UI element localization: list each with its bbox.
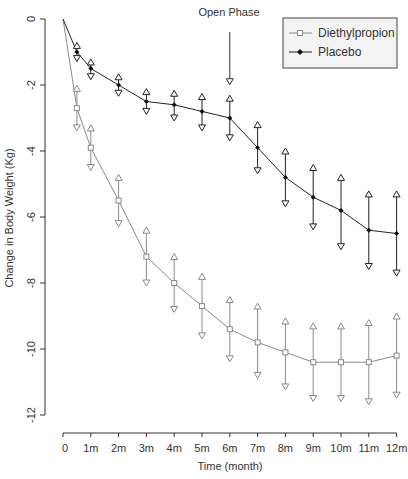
legend: Diethylpropion Placebo: [283, 18, 397, 68]
error-cap-up-icon: [115, 74, 122, 80]
error-cap-down-icon: [365, 399, 372, 405]
square-marker-icon: [311, 360, 316, 365]
error-cap-up-icon: [171, 254, 178, 260]
error-cap-up-icon: [310, 323, 317, 329]
error-cap-up-icon: [226, 297, 233, 303]
error-cap-down-icon: [338, 244, 345, 250]
y-tick-label: -10: [25, 341, 37, 357]
diamond-marker-icon: [394, 231, 399, 236]
error-cap-down-icon: [226, 356, 233, 362]
x-tick-label: 5m: [194, 442, 209, 454]
error-cap-down-icon: [115, 90, 122, 96]
error-cap-down-icon: [73, 56, 80, 62]
error-cap-up-icon: [254, 122, 261, 128]
error-cap-down-icon: [254, 372, 261, 378]
error-cap-up-icon: [338, 174, 345, 180]
y-tick-label: -2: [25, 80, 37, 90]
square-marker-icon: [255, 340, 260, 345]
x-tick-label: 12m: [386, 442, 407, 454]
square-marker-icon: [88, 145, 93, 150]
arrow-down-icon: [226, 79, 233, 85]
x-tick-label: 0: [62, 442, 68, 454]
weight-change-chart: 0-2-4-6-8-10-12 01m2m3m4m5m6m7m8m9m10m11…: [0, 0, 408, 479]
error-cap-up-icon: [393, 191, 400, 197]
x-tick-label: 7m: [250, 442, 265, 454]
square-marker-icon: [200, 304, 205, 309]
square-marker-icon: [144, 254, 149, 259]
x-tick-label: 3m: [139, 442, 154, 454]
error-cap-down-icon: [310, 396, 317, 402]
error-cap-up-icon: [171, 90, 178, 96]
square-marker-icon: [283, 350, 288, 355]
error-cap-down-icon: [282, 384, 289, 390]
diamond-marker-icon: [200, 109, 205, 114]
error-cap-up-icon: [310, 165, 317, 171]
y-tick-label: -8: [25, 278, 37, 288]
square-marker-icon: [366, 360, 371, 365]
open-phase-annotation: Open Phase: [198, 6, 259, 85]
error-cap-down-icon: [171, 306, 178, 312]
x-tick-label: 11m: [359, 442, 380, 454]
x-axis-title: Time (month): [198, 460, 263, 472]
error-cap-up-icon: [393, 313, 400, 319]
error-cap-down-icon: [393, 392, 400, 398]
error-cap-down-icon: [171, 115, 178, 121]
diamond-marker-icon: [144, 99, 149, 104]
error-cap-up-icon: [73, 85, 80, 91]
error-cap-down-icon: [87, 165, 94, 171]
legend-label-diethylpropion: Diethylpropion: [318, 26, 395, 40]
square-marker-icon: [394, 353, 399, 358]
square-marker-icon: [298, 31, 303, 36]
square-marker-icon: [339, 360, 344, 365]
diamond-marker-icon: [116, 83, 121, 88]
legend-label-placebo: Placebo: [318, 45, 362, 59]
error-cap-up-icon: [199, 273, 206, 279]
error-cap-down-icon: [143, 280, 150, 286]
error-cap-up-icon: [365, 320, 372, 326]
error-cap-up-icon: [87, 125, 94, 131]
error-cap-up-icon: [226, 95, 233, 101]
error-cap-up-icon: [199, 94, 206, 100]
error-cap-down-icon: [226, 135, 233, 141]
y-tick-label: 0: [25, 16, 37, 22]
error-cap-up-icon: [282, 318, 289, 324]
square-marker-icon: [116, 198, 121, 203]
diamond-marker-icon: [172, 102, 177, 107]
error-cap-up-icon: [143, 227, 150, 233]
error-cap-down-icon: [310, 224, 317, 230]
error-cap-down-icon: [393, 270, 400, 276]
square-marker-icon: [172, 281, 177, 286]
error-cap-down-icon: [143, 108, 150, 114]
x-tick-label: 2m: [111, 442, 126, 454]
error-cap-down-icon: [282, 201, 289, 207]
series-diethylpropion: [63, 19, 400, 405]
square-marker-icon: [227, 327, 232, 332]
error-cap-up-icon: [254, 303, 261, 309]
error-cap-up-icon: [143, 89, 150, 95]
error-cap-down-icon: [199, 333, 206, 339]
x-tick-label: 1m: [83, 442, 98, 454]
y-tick-label: -6: [25, 212, 37, 222]
y-axis: 0-2-4-6-8-10-12: [25, 16, 45, 423]
error-cap-down-icon: [87, 74, 94, 80]
plot-series: [63, 19, 400, 405]
error-cap-down-icon: [73, 125, 80, 131]
error-cap-down-icon: [199, 125, 206, 131]
x-tick-label: 10m: [330, 442, 351, 454]
error-cap-down-icon: [254, 168, 261, 174]
y-tick-label: -4: [25, 146, 37, 156]
error-cap-up-icon: [365, 191, 372, 197]
open-phase-label: Open Phase: [198, 6, 259, 18]
error-cap-down-icon: [115, 221, 122, 227]
y-tick-label: -12: [25, 407, 37, 423]
error-cap-up-icon: [87, 59, 94, 65]
x-tick-label: 6m: [222, 442, 237, 454]
error-cap-down-icon: [338, 396, 345, 402]
square-marker-icon: [74, 106, 79, 111]
error-cap-up-icon: [282, 148, 289, 154]
y-axis-title: Change in Body Weight (Kg): [3, 148, 15, 287]
x-tick-label: 8m: [278, 442, 293, 454]
error-cap-up-icon: [115, 174, 122, 180]
error-cap-up-icon: [338, 323, 345, 329]
x-tick-label: 4m: [167, 442, 182, 454]
